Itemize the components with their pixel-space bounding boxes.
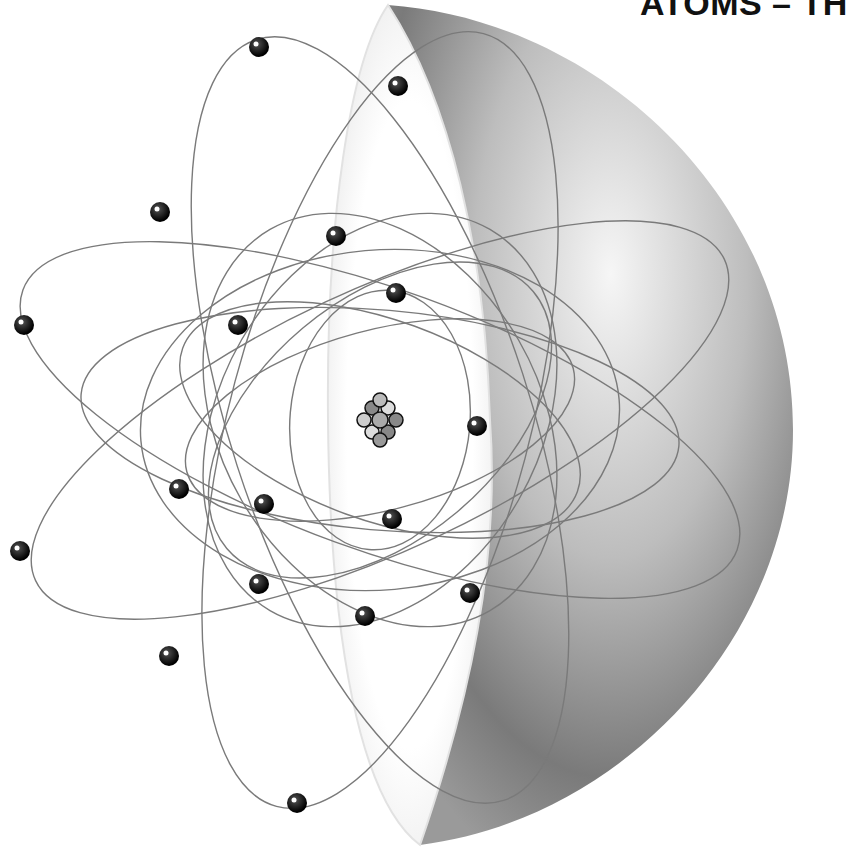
electron-icon — [169, 479, 189, 499]
electron-icon — [355, 606, 375, 626]
electron-icon — [287, 793, 307, 813]
electron-icon — [386, 283, 406, 303]
electron-icon — [249, 37, 269, 57]
electron-icon — [467, 416, 487, 436]
electron-icon — [10, 541, 30, 561]
electron-icon — [388, 76, 408, 96]
electron-icon — [228, 315, 248, 335]
electron-icon — [249, 574, 269, 594]
electron-icon — [382, 509, 402, 529]
electron-icon — [326, 226, 346, 246]
electron-icon — [14, 315, 34, 335]
electron-icon — [460, 583, 480, 603]
electron-icon — [150, 202, 170, 222]
electron-icon — [254, 494, 274, 514]
electron-icon — [159, 646, 179, 666]
